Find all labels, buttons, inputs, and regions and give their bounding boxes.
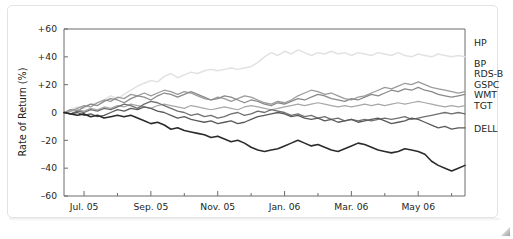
legend-label-tgt: TGT [473,100,493,111]
chart-legend: HPBPRDS-BGSPCWMTTGTDELL [473,37,503,134]
y-tick-label: –40 [41,162,57,173]
legend-label-wmt: WMT [474,89,497,100]
y-tick-label: –60 [41,190,57,201]
y-tick-label: +60 [38,23,58,34]
y-tick-label: +40 [38,51,58,62]
chart-figure: +60+40+200–20–40–60 Jul. 05Sep. 05Nov. 0… [0,0,513,239]
x-tick-label: May 06 [401,201,435,212]
x-tick-label: Nov. 05 [200,201,235,212]
y-axis-tick-labels: +60+40+200–20–40–60 [38,23,58,201]
line-chart: +60+40+200–20–40–60 Jul. 05Sep. 05Nov. 0… [0,0,513,239]
x-tick-label: Sep. 05 [133,201,168,212]
legend-label-dell: DELL [474,123,498,134]
x-tick-label: Jan. 06 [268,201,301,212]
x-tick-label: Mar. 06 [334,201,368,212]
legend-label-rds-b: RDS-B [474,68,503,79]
legend-label-hp: HP [474,37,487,48]
y-axis-title: Rate of Return (%) [17,68,28,157]
page-corner-fold [501,227,510,236]
y-tick-label: +20 [38,79,58,90]
y-tick-label: –20 [41,135,57,146]
y-tick-label: 0 [51,107,57,118]
x-tick-label: Jul. 05 [69,201,99,212]
x-axis-tick-labels: Jul. 05Sep. 05Nov. 05Jan. 06Mar. 06May 0… [69,201,435,212]
